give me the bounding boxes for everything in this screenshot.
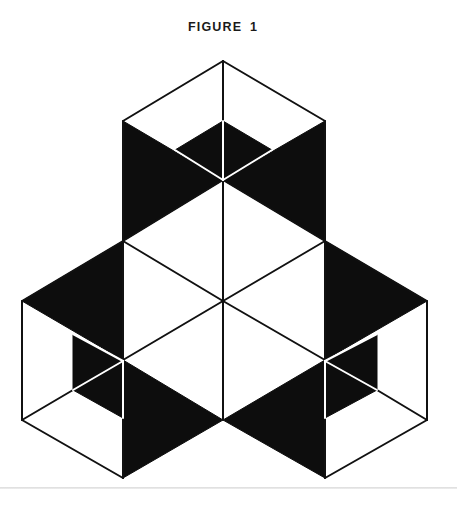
left-cube-lower-wedge xyxy=(123,360,223,478)
right-cube-lower-wedge xyxy=(223,360,325,478)
page-bottom-rule xyxy=(0,487,457,489)
top-cube-upper-right-edge xyxy=(223,61,325,121)
left-cube-inner-floor-line xyxy=(22,390,73,420)
left-cube-bottom-edge xyxy=(22,420,123,478)
hex-diag-left-to-center xyxy=(123,241,223,301)
hex-diag-right-to-center xyxy=(223,241,325,301)
isometric-cube-figure xyxy=(0,0,457,508)
right-cube-bottom-edge xyxy=(325,420,427,478)
hex-center-to-lower-left xyxy=(123,301,223,360)
right-cube-inner-floor-line xyxy=(377,390,427,420)
hex-center-to-lower-right xyxy=(223,301,325,360)
top-cube-upper-left-edge xyxy=(123,61,223,121)
